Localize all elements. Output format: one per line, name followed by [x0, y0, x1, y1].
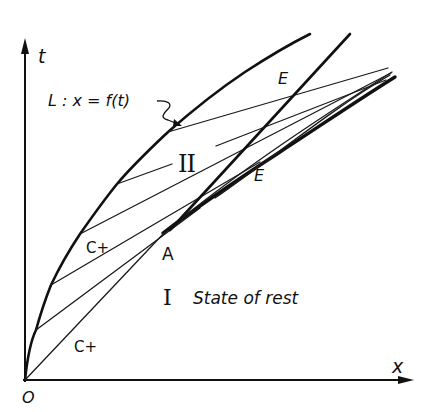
shock-label-lower-E: E: [254, 166, 265, 185]
x-axis-label: x: [391, 355, 404, 377]
region-I-label: I: [163, 285, 172, 310]
t-axis-label: t: [38, 45, 47, 67]
point-A-label: A: [162, 244, 174, 264]
region-II-label: II: [178, 150, 195, 178]
characteristic-label-lower: C+: [74, 338, 97, 356]
curve-L: [25, 34, 310, 380]
state-of-rest-label: State of rest: [193, 288, 299, 308]
characteristic-label-upper: C+: [86, 239, 109, 257]
characteristic-line: [36, 208, 200, 330]
origin-label: O: [22, 388, 35, 407]
t-axis-arrow-icon: [21, 38, 29, 54]
characteristic-line: [216, 80, 386, 146]
characteristic-line: [51, 162, 260, 285]
x-axis-arrow-icon: [398, 376, 414, 384]
characteristics-diagram: t x O L : x = f(t) II I State of rest A …: [0, 0, 427, 412]
curve-L-label: L : x = f(t): [48, 91, 130, 110]
shock-label-upper-E: E: [278, 69, 289, 88]
